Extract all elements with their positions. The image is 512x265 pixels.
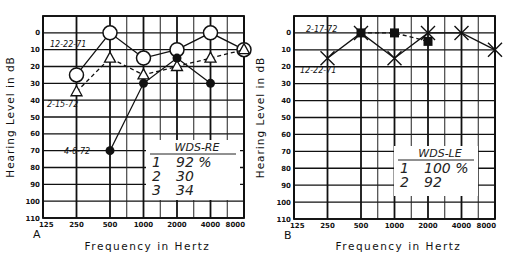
filled-square-marker xyxy=(390,28,399,37)
filled-circle-marker xyxy=(139,79,148,88)
x-axis-label: Frequency in Hertz xyxy=(336,240,462,252)
filled-circle-marker xyxy=(206,79,215,88)
series-date-label: 12-22-71 xyxy=(50,40,86,49)
y-tick-label: 110 xyxy=(25,215,40,223)
y-tick-label: 50 xyxy=(30,114,40,122)
wds-row-index: 3 xyxy=(152,182,161,198)
y-tick-label: 60 xyxy=(281,131,291,139)
open-triangle-marker xyxy=(71,86,82,96)
panel-label: B xyxy=(284,229,292,242)
wds-row-index: 2 xyxy=(400,174,409,190)
filled-square-marker xyxy=(357,28,366,37)
y-axis-label: Hearing Level in dB xyxy=(254,57,266,179)
y-tick-label: 110 xyxy=(276,216,291,224)
x-tick-label: 8000 xyxy=(477,222,497,230)
y-tick-label: 90 xyxy=(281,182,291,190)
audiogram-panel-a: 0102030405060708090100110125250500100020… xyxy=(4,16,251,252)
y-tick-label: 100 xyxy=(25,198,40,206)
wds-title: WDS-RE xyxy=(175,141,220,154)
y-tick-label: 50 xyxy=(281,114,291,122)
x-tick-label: 125 xyxy=(290,222,305,230)
y-tick-label: 60 xyxy=(30,130,40,138)
x-axis-label: Frequency in Hertz xyxy=(85,240,211,252)
y-tick-label: 0 xyxy=(35,29,40,37)
panel-label: A xyxy=(33,228,41,241)
x-tick-label: 500 xyxy=(354,222,369,230)
open-circle-marker xyxy=(103,26,117,40)
series-date-label: 4-6-72 xyxy=(64,147,90,156)
wds-box: WDS-RE192 %230334 xyxy=(146,140,240,200)
open-triangle-marker xyxy=(105,52,116,62)
y-tick-label: 0 xyxy=(286,29,291,37)
y-tick-label: 10 xyxy=(281,46,291,54)
x-tick-label: 125 xyxy=(39,221,54,229)
filled-circle-marker xyxy=(173,54,182,63)
series-date-label: 2-17-72 xyxy=(306,25,337,34)
x-tick-label: 2000 xyxy=(167,221,187,229)
y-tick-label: 80 xyxy=(281,165,291,173)
x-tick-label: 1000 xyxy=(134,221,154,229)
wds-title: WDS-LE xyxy=(418,147,461,160)
series-date-label: 2-15-72 xyxy=(47,100,78,109)
x-tick-label: 500 xyxy=(103,221,118,229)
y-tick-label: 70 xyxy=(30,147,40,155)
y-tick-label: 30 xyxy=(281,80,291,88)
x-tick-label: 2000 xyxy=(418,222,438,230)
y-axis-label: Hearing Level in dB xyxy=(4,56,16,178)
y-tick-label: 70 xyxy=(281,148,291,156)
y-tick-label: 80 xyxy=(30,164,40,172)
y-tick-label: 40 xyxy=(281,97,291,105)
y-tick-label: 40 xyxy=(30,97,40,105)
x-tick-label: 4000 xyxy=(452,222,472,230)
y-tick-label: 10 xyxy=(30,46,40,54)
wds-row-value: 92 xyxy=(424,174,442,190)
filled-square-marker xyxy=(424,37,433,46)
x-tick-label: 8000 xyxy=(226,221,246,229)
open-circle-marker xyxy=(204,26,218,40)
open-circle-marker xyxy=(137,51,151,65)
series-date-label: 12-22-71 xyxy=(300,66,336,75)
filled-circle-marker xyxy=(106,146,115,155)
x-tick-label: 4000 xyxy=(201,221,221,229)
x-tick-label: 1000 xyxy=(385,222,405,230)
y-tick-label: 30 xyxy=(30,80,40,88)
x-tick-label: 250 xyxy=(320,222,335,230)
y-tick-label: 100 xyxy=(276,199,291,207)
series-2-17-72: 2-17-72 xyxy=(306,25,433,46)
wds-box: WDS-LE1100 %292 xyxy=(394,146,478,196)
audiogram-figure: 0102030405060708090100110125250500100020… xyxy=(0,0,512,265)
audiogram-panel-b: 0102030405060708090100110125250500100020… xyxy=(254,16,502,252)
y-tick-label: 20 xyxy=(30,63,40,71)
open-triangle-marker xyxy=(138,69,149,79)
x-tick-label: 250 xyxy=(69,221,84,229)
open-triangle-marker xyxy=(205,52,216,62)
wds-row-value: 34 xyxy=(176,182,194,198)
y-tick-label: 20 xyxy=(281,63,291,71)
open-circle-marker xyxy=(70,68,84,82)
y-tick-label: 90 xyxy=(30,181,40,189)
